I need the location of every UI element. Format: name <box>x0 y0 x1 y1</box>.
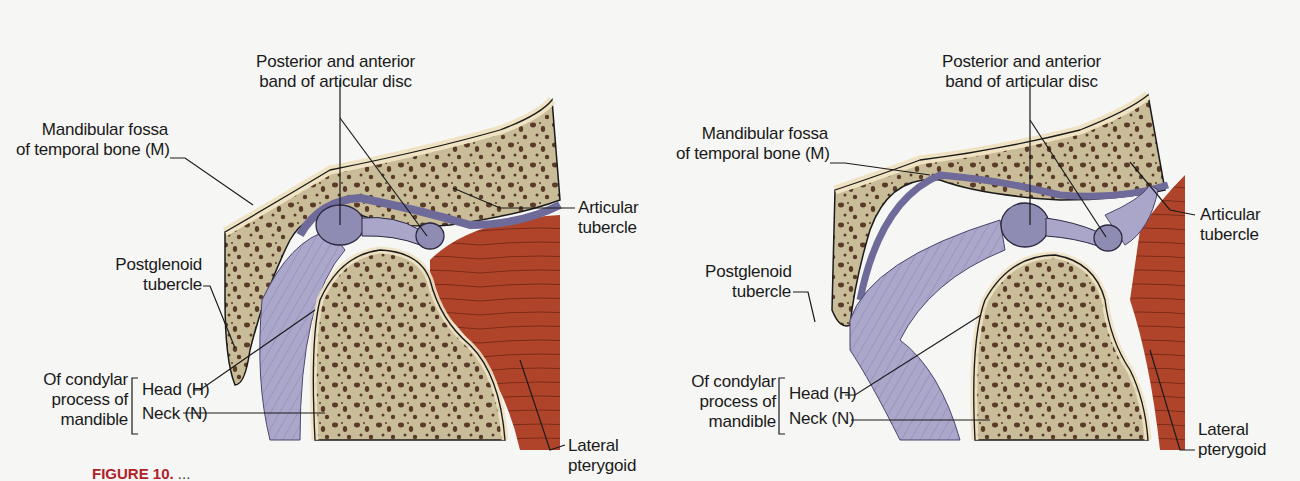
label-articular-disc-right: Posterior and anterior band of articular… <box>942 52 1101 92</box>
label-articular-tubercle-left: Articular tubercle <box>578 198 639 238</box>
label-head-right: Head (H) <box>789 384 856 404</box>
caption-text: ... <box>178 466 191 481</box>
label-postglenoid-tubercle-left: Postglenoid tubercle <box>80 255 202 295</box>
label-neck-left: Neck (N) <box>142 404 207 424</box>
tmj-figure: Posterior and anterior band of articular… <box>0 0 1300 481</box>
label-mandibular-fossa-left: Mandibular fossa of temporal bone (M) <box>16 120 168 160</box>
label-neck-right: Neck (N) <box>789 409 854 429</box>
label-lateral-pterygoid-right: Lateral pterygoid <box>1198 420 1266 460</box>
figure-caption: FIGURE 10. ... <box>92 466 190 481</box>
label-head-left: Head (H) <box>142 380 209 400</box>
articular-disc-right <box>1001 203 1122 251</box>
label-lateral-pterygoid-left: Lateral pterygoid <box>568 436 636 476</box>
label-articular-disc-left: Posterior and anterior band of articular… <box>256 52 415 92</box>
figure-number: FIGURE 10. <box>92 466 174 481</box>
label-condylar-process-left: Of condylar process of mandible <box>8 370 128 430</box>
label-articular-tubercle-right: Articular tubercle <box>1200 205 1261 245</box>
mandibular-condyle-right <box>974 255 1148 440</box>
label-postglenoid-tubercle-right: Postglenoid tubercle <box>705 262 791 302</box>
label-condylar-process-right: Of condylar process of mandible <box>660 372 776 432</box>
label-mandibular-fossa-right: Mandibular fossa of temporal bone (M) <box>676 124 828 164</box>
